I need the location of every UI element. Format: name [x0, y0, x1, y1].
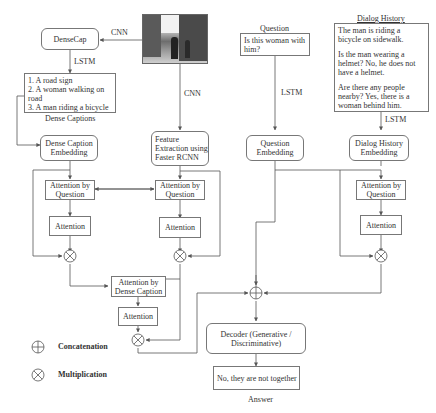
legend-multiplication-label: Multiplication	[58, 370, 107, 379]
cnn-label-side: CNN	[184, 89, 201, 98]
history-paragraph: Is the man wearing a helmet? No, he does…	[338, 50, 425, 77]
caption-attention-label: Attention	[55, 222, 85, 231]
caption-item: 2. A woman walking on road	[28, 85, 112, 103]
attention-by-dense-caption-label: Attention by Dense Caption	[112, 278, 165, 296]
dialog-history-title: Dialog History	[357, 14, 405, 23]
dialog-history-embedding-label: Dialog History Embedding	[350, 139, 408, 157]
caption-attention-by-question-box: Attention by Question	[45, 180, 95, 200]
legend-concat-icon	[32, 341, 44, 353]
history-multiply-icon	[375, 250, 387, 262]
image-multiply-icon	[174, 250, 186, 262]
feature-extraction-box: Feature Extraction using Faster RCNN	[151, 131, 209, 166]
image-attention-label: Attention	[165, 223, 195, 232]
image-attention-box: Attention	[159, 217, 201, 238]
input-street-image	[142, 14, 208, 64]
dialog-history-box: The man is riding a bicycle on sidewalk.…	[334, 23, 429, 112]
legend-concatenation-label: Concatenation	[58, 342, 108, 351]
dense-captions-title: Dense Captions	[45, 114, 95, 123]
densecap-box: DenseCap	[41, 28, 99, 50]
legend-multiply-icon	[32, 369, 44, 381]
decoder-box: Decoder (Generative / Discriminative)	[206, 323, 306, 354]
caption-item: 1. A road sign	[28, 76, 112, 85]
caption-item: 3. A man riding a bicycle	[28, 103, 112, 112]
feature-extraction-label: Feature Extraction using Faster RCNN	[155, 135, 208, 162]
question-text: Is this woman with him?	[244, 36, 305, 54]
history-attention-box: Attention	[360, 215, 402, 235]
attention-by-dense-caption-box: Attention by Dense Caption	[111, 276, 166, 297]
image-attention-by-question-label: Attention by Question	[156, 181, 204, 199]
dense-caption-embedding-box: Dense Caption Embedding	[40, 135, 98, 161]
dense-captions-box: 1. A road sign 2. A woman walking on roa…	[24, 73, 116, 113]
caption-multiply-icon	[64, 250, 76, 262]
lstm-label-question: LSTM	[281, 88, 302, 97]
question-embedding-box: Question Embedding	[246, 135, 304, 161]
dialog-history-embedding-box: Dialog History Embedding	[349, 135, 409, 161]
dense-caption-embedding-label: Dense Caption Embedding	[41, 139, 97, 157]
history-attention-label: Attention	[366, 221, 396, 230]
concat-icon	[250, 287, 262, 299]
cnn-label-top: CNN	[111, 28, 128, 37]
caption-attention-box: Attention	[49, 216, 91, 236]
question-embedding-label: Question Embedding	[247, 139, 303, 157]
history-paragraph: Are there any people nearby? Yes, there …	[338, 83, 425, 110]
answer-text: No, they are not together	[217, 374, 297, 383]
caption-attention-by-question-label: Attention by Question	[46, 181, 94, 199]
lstm-label-densecap: LSTM	[74, 57, 95, 66]
question-box: Is this woman with him?	[240, 33, 310, 56]
image-attention-by-question-box: Attention by Question	[155, 180, 205, 200]
question-title: Question	[260, 24, 289, 33]
answer-box: No, they are not together	[213, 366, 300, 390]
dense-caption-multiply-icon	[132, 334, 144, 346]
answer-title: Answer	[248, 395, 273, 404]
decoder-label: Decoder (Generative / Discriminative)	[210, 330, 302, 348]
history-attention-by-question-box: Attention by Question	[356, 180, 406, 200]
densecap-label: DenseCap	[54, 35, 87, 44]
dense-caption-attention-label: Attention	[123, 312, 153, 321]
history-paragraph: The man is riding a bicycle on sidewalk.	[338, 26, 425, 44]
lstm-label-history: LSTM	[385, 115, 406, 124]
history-attention-by-question-label: Attention by Question	[357, 181, 405, 199]
dense-caption-attention-box: Attention	[118, 307, 158, 326]
